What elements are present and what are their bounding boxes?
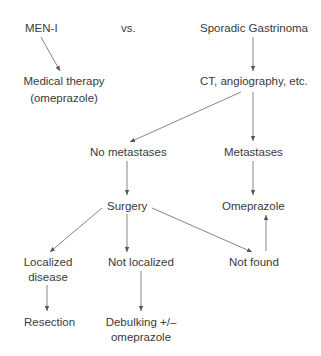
edge-surgery-notfound — [152, 208, 252, 252]
node-surgery: Surgery — [107, 199, 147, 214]
node-no-metastases: No metastases — [90, 145, 167, 160]
connector-arrows — [0, 0, 321, 356]
node-vs: vs. — [121, 21, 136, 36]
node-debulking: Debulking +/– omeprazole — [105, 315, 177, 344]
node-omeprazole: Omeprazole — [222, 199, 285, 214]
edge-surgery-localized — [50, 208, 102, 252]
node-sporadic-gastrinoma: Sporadic Gastrinoma — [200, 21, 308, 36]
node-not-localized: Not localized — [108, 255, 174, 270]
gastrinoma-flowchart: MEN-I vs. Sporadic Gastrinoma Medical th… — [0, 0, 321, 356]
node-resection: Resection — [24, 315, 75, 330]
node-men1: MEN-I — [25, 21, 58, 36]
node-localized-disease: Localized disease — [22, 255, 74, 284]
edge-men1-medical — [41, 37, 60, 71]
node-ct-angiography: CT, angiography, etc. — [200, 74, 308, 89]
node-medical-therapy: Medical therapy (omeprazole) — [22, 74, 106, 105]
edge-ct-nometastases — [130, 92, 241, 142]
node-metastases: Metastases — [224, 145, 283, 160]
node-not-found: Not found — [229, 255, 279, 270]
